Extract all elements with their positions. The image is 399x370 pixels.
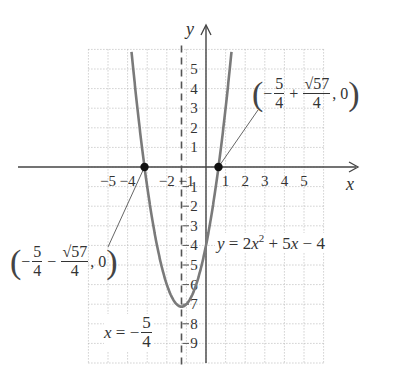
svg-text:−5: −5 (100, 173, 116, 189)
svg-text:−2: −2 (159, 173, 175, 189)
svg-text:1: 1 (190, 179, 198, 195)
equation-label: y = 2x2 + 5x − 4 (215, 233, 327, 252)
x-axis-label: x (346, 175, 354, 193)
svg-text:2: 2 (190, 198, 198, 214)
svg-text:8: 8 (190, 316, 198, 332)
svg-text:5: 5 (190, 257, 198, 273)
left-root-label: ( − 54 − √574 , 0 ) (10, 244, 118, 279)
svg-text:1: 1 (222, 173, 230, 189)
parabola-plot: −5−4−2−11234554321123456789 (0, 0, 399, 370)
svg-text:3: 3 (190, 218, 198, 234)
svg-text:−4: −4 (120, 173, 136, 189)
svg-text:2: 2 (190, 120, 198, 136)
svg-text:4: 4 (190, 237, 198, 253)
svg-text:1: 1 (190, 139, 198, 155)
svg-text:2: 2 (241, 173, 249, 189)
right-root-label: ( − 54 + √574 , 0 ) (252, 76, 360, 111)
svg-text:4: 4 (281, 173, 289, 189)
y-axis-label: y (186, 20, 194, 38)
svg-text:3: 3 (190, 100, 198, 116)
svg-text:9: 9 (190, 335, 198, 351)
svg-text:5: 5 (300, 173, 308, 189)
svg-text:3: 3 (261, 173, 269, 189)
axis-of-symmetry-label: x = − 54 (104, 314, 154, 352)
svg-text:5: 5 (190, 61, 198, 77)
svg-text:4: 4 (190, 81, 198, 97)
